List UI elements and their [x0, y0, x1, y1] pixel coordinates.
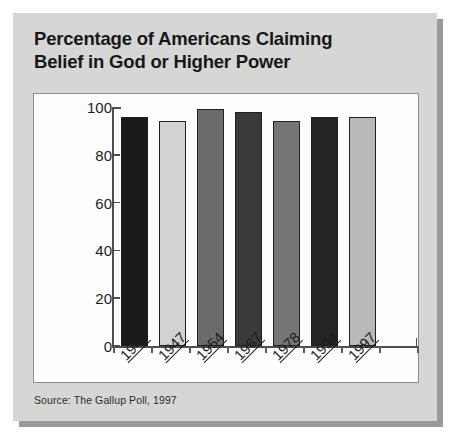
- bar-1997: [349, 117, 376, 346]
- x-axis-tick: [303, 346, 305, 353]
- y-axis-tick-label: 20: [42, 290, 112, 307]
- y-axis-tick-label: 100: [42, 99, 112, 116]
- bars-layer: [113, 107, 417, 346]
- figure-card: Percentage of Americans Claiming Belief …: [13, 13, 437, 421]
- bar-1947: [159, 121, 186, 346]
- source-note: Source: The Gallup Poll, 1997: [34, 394, 177, 406]
- x-axis-tick: [189, 346, 191, 353]
- y-axis-tick-label: 80: [42, 146, 112, 163]
- y-axis-tick-label: 40: [42, 242, 112, 259]
- bar-1978: [273, 121, 300, 346]
- x-axis-tick: [151, 346, 153, 353]
- plot-panel: 020406080100 194419471954196719781994199…: [33, 93, 419, 383]
- chart-title-line-2: Belief in God or Higher Power: [34, 50, 414, 73]
- plot-area: 020406080100 194419471954196719781994199…: [34, 94, 418, 382]
- x-axis-tick: [113, 346, 115, 353]
- x-axis-tick: [227, 346, 229, 353]
- x-axis-tick: [417, 346, 419, 353]
- chart-title: Percentage of Americans Claiming Belief …: [34, 27, 414, 73]
- y-axis-tick-label: 60: [42, 194, 112, 211]
- bar-1994: [311, 117, 338, 346]
- bar-1954: [197, 109, 224, 346]
- chart-title-line-1: Percentage of Americans Claiming: [34, 28, 332, 49]
- bar-1967: [235, 112, 262, 346]
- x-axis-tick: [379, 346, 381, 353]
- x-axis-tick: [265, 346, 267, 353]
- x-axis-tick: [341, 346, 343, 353]
- bar-1944: [121, 117, 148, 346]
- figure-root: Percentage of Americans Claiming Belief …: [0, 0, 452, 433]
- y-axis-tick-label: 0: [42, 338, 112, 355]
